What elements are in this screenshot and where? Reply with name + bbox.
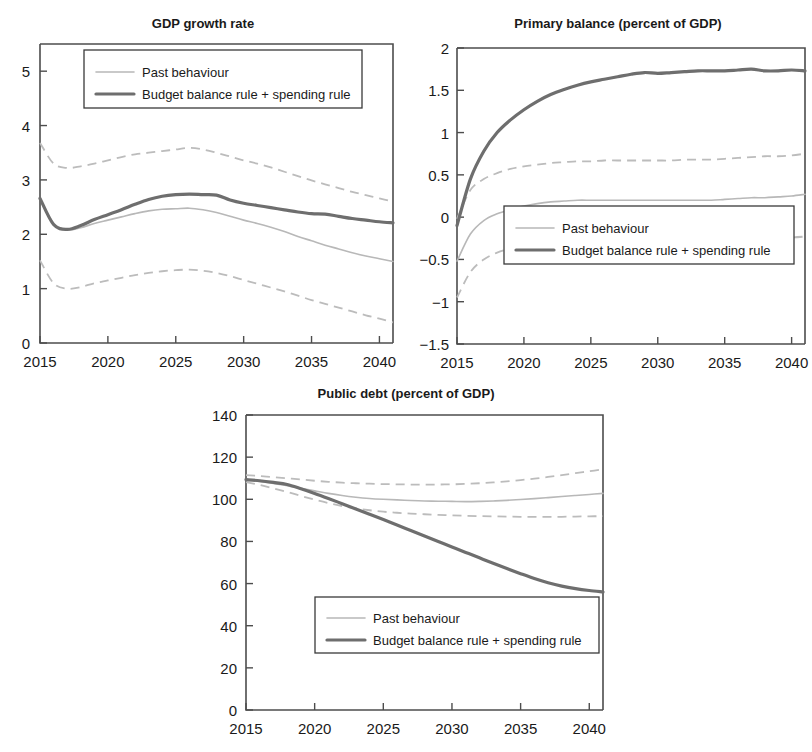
y-tick-label: 0.5 — [428, 167, 449, 184]
x-tick-label: 2035 — [504, 720, 537, 737]
public-debt-chart-svg: Public debt (percent of GDP) 02040608010… — [180, 376, 632, 752]
y-tick-label: 0 — [229, 702, 237, 719]
y-tick-label: 40 — [220, 618, 237, 635]
y-tick-label: 2 — [22, 226, 30, 243]
legend-label-past: Past behaviour — [142, 65, 229, 80]
axis-frame-top-right — [246, 415, 603, 710]
public-debt-title: Public debt (percent of GDP) — [318, 386, 495, 401]
y-tick-label: −0.5 — [419, 251, 449, 268]
y-tick-label: 120 — [212, 449, 237, 466]
x-tick-label: 2015 — [23, 353, 56, 370]
x-tick-label: 2035 — [295, 353, 328, 370]
y-tick-label: 4 — [22, 118, 30, 135]
legend: Past behaviourBudget balance rule + spen… — [504, 206, 794, 264]
x-tick-label: 2020 — [91, 353, 124, 370]
x-tick-label: 2025 — [159, 353, 192, 370]
legend-label-past: Past behaviour — [562, 221, 649, 236]
y-tick-label: 1 — [22, 281, 30, 298]
x-tick-label: 2040 — [775, 354, 808, 371]
y-tick-label: 5 — [22, 63, 30, 80]
y-tick-label: 1 — [441, 125, 449, 142]
axis-spine-left-bottom — [457, 48, 805, 344]
legend-label-rule: Budget balance rule + spending rule — [373, 633, 582, 648]
x-tick-label: 2040 — [363, 353, 396, 370]
y-tick-label: 0 — [22, 335, 30, 352]
gdp-growth-chart-svg: GDP growth rate 012345201520202025203020… — [0, 0, 406, 376]
x-tick-label: 2040 — [573, 720, 606, 737]
series-line-dashed-light — [40, 143, 393, 202]
x-tick-label: 2025 — [574, 354, 607, 371]
y-tick-label: −1 — [432, 294, 449, 311]
figure-three-panel-fiscal-projections: GDP growth rate 012345201520202025203020… — [0, 0, 812, 752]
axis-spine-left-bottom — [246, 415, 603, 710]
x-tick-label: 2030 — [227, 353, 260, 370]
y-tick-label: 1.5 — [428, 82, 449, 99]
x-tick-label: 2030 — [641, 354, 674, 371]
y-tick-label: 140 — [212, 407, 237, 424]
x-tick-label: 2020 — [298, 720, 331, 737]
gdp-growth-title: GDP growth rate — [152, 16, 254, 31]
series-line-solid-dark — [246, 480, 603, 592]
chart-panel-primary-balance: Primary balance (percent of GDP) −1.5−1−… — [406, 0, 812, 376]
public-debt-plot: 0204060801001201402015202020252030203520… — [212, 407, 606, 737]
legend: Past behaviourBudget balance rule + spen… — [315, 597, 599, 653]
axis-frame-top-right — [457, 48, 805, 344]
chart-panel-public-debt: Public debt (percent of GDP) 02040608010… — [180, 376, 632, 752]
series-line-solid-light — [246, 479, 603, 501]
y-tick-label: 3 — [22, 172, 30, 189]
primary-balance-title: Primary balance (percent of GDP) — [514, 16, 721, 31]
legend-label-past: Past behaviour — [373, 611, 460, 626]
series-line-dashed-light — [40, 260, 393, 322]
x-tick-label: 2025 — [367, 720, 400, 737]
series-line-solid-dark — [457, 69, 805, 225]
y-tick-label: 20 — [220, 660, 237, 677]
y-tick-label: −1.5 — [419, 336, 449, 353]
y-tick-label: 0 — [441, 209, 449, 226]
legend: Past behaviourBudget balance rule + spen… — [84, 50, 362, 108]
chart-panel-gdp-growth: GDP growth rate 012345201520202025203020… — [0, 0, 406, 376]
x-tick-label: 2030 — [435, 720, 468, 737]
gdp-growth-plot: 012345201520202025203020352040Past behav… — [22, 44, 396, 370]
y-tick-label: 80 — [220, 533, 237, 550]
y-tick-label: 100 — [212, 491, 237, 508]
x-tick-label: 2015 — [440, 354, 473, 371]
x-tick-label: 2035 — [708, 354, 741, 371]
x-tick-label: 2020 — [507, 354, 540, 371]
x-tick-label: 2015 — [229, 720, 262, 737]
primary-balance-chart-svg: Primary balance (percent of GDP) −1.5−1−… — [406, 0, 812, 376]
y-tick-label: 2 — [441, 40, 449, 57]
legend-label-rule: Budget balance rule + spending rule — [142, 87, 351, 102]
series-line-solid-light — [40, 199, 393, 262]
y-tick-label: 60 — [220, 576, 237, 593]
series-line-dashed-light — [246, 469, 603, 484]
legend-label-rule: Budget balance rule + spending rule — [562, 243, 771, 258]
primary-balance-plot: −1.5−1−0.500.511.52201520202025203020352… — [419, 40, 808, 371]
